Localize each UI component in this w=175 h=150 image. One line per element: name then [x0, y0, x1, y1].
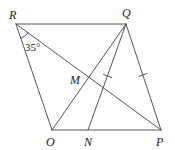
diagram-canvas: R Q O N P M 35° [0, 0, 175, 150]
angle-label-R: 35° [25, 41, 40, 53]
segment-OQ [52, 24, 126, 130]
label-M: M [69, 73, 81, 87]
segment-QP [126, 24, 161, 130]
label-R: R [8, 8, 17, 22]
label-Q: Q [122, 6, 131, 20]
label-P: P [155, 135, 164, 149]
segment-QN [88, 24, 126, 130]
label-N: N [83, 135, 93, 149]
angle-arc-R [21, 33, 28, 38]
geometry-diagram: R Q O N P M 35° [0, 0, 175, 150]
label-O: O [46, 135, 55, 149]
segment-RO [16, 24, 52, 130]
